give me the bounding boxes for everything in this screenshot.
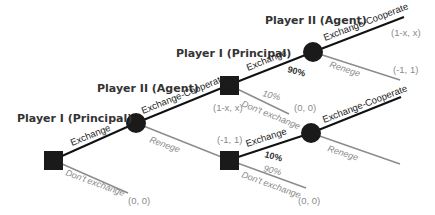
node-c3-circle xyxy=(301,123,321,143)
payoff-s2-dont: (0, 0) xyxy=(294,102,316,113)
prob-s2-dont: 10% xyxy=(261,88,281,102)
move-c3-renege: Renege xyxy=(326,143,359,162)
payoff-s3-node: (-1, 1) xyxy=(217,134,242,145)
node-root-square xyxy=(44,151,63,170)
payoff-s2-node: (1-x, x) xyxy=(213,102,243,113)
player-label-root: Player I (Principal) xyxy=(17,112,132,125)
payoff-root-dont: (0, 0) xyxy=(128,195,150,206)
node-c2-circle xyxy=(303,42,323,62)
prob-s3-exchange: 10% xyxy=(263,149,283,163)
move-s2-dont: Don't exchange xyxy=(240,99,301,132)
move-s3-exchange: Exchange xyxy=(244,125,288,149)
prob-s3-dont: 90% xyxy=(262,163,282,177)
payoff-c2-cooperate: (1-x, x) xyxy=(391,27,421,38)
move-c1-renege: Renege xyxy=(148,134,181,154)
game-tree-diagram: Player I (Principal) Player II (Agent) P… xyxy=(0,0,435,215)
move-c3-cooperate: Exchange-Cooperate xyxy=(321,82,409,124)
prob-s2-exchange: 90% xyxy=(286,64,306,78)
payoff-c2-renege: (-1, 1) xyxy=(393,64,418,75)
payoff-s3-dont: (0, 0) xyxy=(298,195,320,206)
move-root-dont: Don't exchange xyxy=(64,167,126,198)
node-s3-square xyxy=(220,151,239,170)
